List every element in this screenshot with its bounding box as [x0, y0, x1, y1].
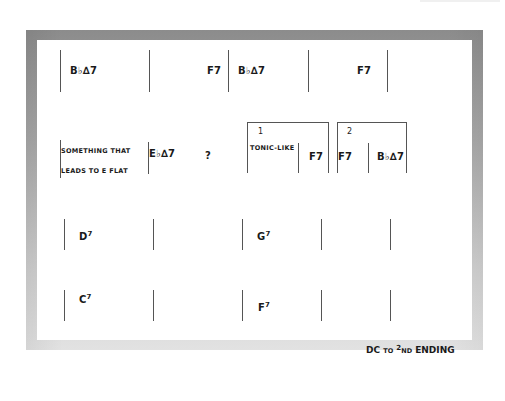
to-text: TO: [383, 347, 393, 355]
first-ending-number: 1: [258, 127, 263, 136]
bar-line: [64, 290, 65, 321]
bar-line: [242, 290, 243, 321]
first-ending-label: TONIC-LIKE: [250, 144, 294, 152]
bar-line: [60, 50, 61, 92]
chord-r1-m2: F7: [207, 65, 221, 76]
second-ending-chord-2: B♭∆7: [377, 151, 404, 162]
bar-line: [242, 219, 243, 250]
chord-r1-m4: F7: [357, 65, 371, 76]
dc-instruction: DC TO 2ND ENDING: [366, 345, 455, 355]
ordinal-number: 2: [396, 344, 401, 352]
corner-artifact: [420, 0, 500, 2]
annotation-line-2: LEADS TO E FLAT: [61, 167, 128, 175]
annotation-line-1: SOMETHING THAT: [61, 147, 130, 155]
chord-r4-f7: F7: [258, 302, 270, 313]
chord-extension: 7: [87, 293, 92, 301]
chord-extension: 7: [265, 301, 270, 309]
second-ending-chord-1: F7: [338, 151, 352, 162]
bar-line: [298, 143, 299, 173]
chord-root: F: [258, 302, 265, 313]
chord-r3-d7: D7: [79, 231, 93, 242]
ending-text: ENDING: [415, 345, 454, 355]
bar-line: [321, 219, 322, 250]
chord-r4-c7: C7: [79, 294, 92, 305]
bar-line: [387, 50, 388, 92]
second-ending-number: 2: [347, 127, 352, 136]
chord-root: C: [79, 294, 87, 305]
chord-r3-g7: G7: [257, 231, 271, 242]
bar-line: [321, 290, 322, 321]
bar-line: [153, 290, 154, 321]
bar-line: [153, 219, 154, 250]
chord-extension: 7: [265, 230, 270, 238]
chord-r2-eb: E♭∆7: [149, 148, 175, 159]
chord-root: D: [79, 231, 88, 242]
chord-r2-unknown: ?: [205, 150, 211, 161]
chord-r1-m1: B♭∆7: [70, 65, 97, 76]
lead-sheet: [37, 40, 472, 340]
dc-text: DC: [366, 345, 380, 355]
bar-line: [149, 50, 150, 92]
bar-line: [228, 50, 229, 92]
chord-r1-m3: B♭∆7: [238, 65, 265, 76]
bar-line: [390, 290, 391, 321]
chord-extension: 7: [88, 230, 93, 238]
bar-line: [308, 50, 309, 92]
bar-line: [64, 219, 65, 250]
bar-line: [368, 143, 369, 173]
first-ending-chord: F7: [309, 151, 323, 162]
ordinal-suffix: ND: [401, 347, 412, 355]
bar-line: [390, 219, 391, 250]
